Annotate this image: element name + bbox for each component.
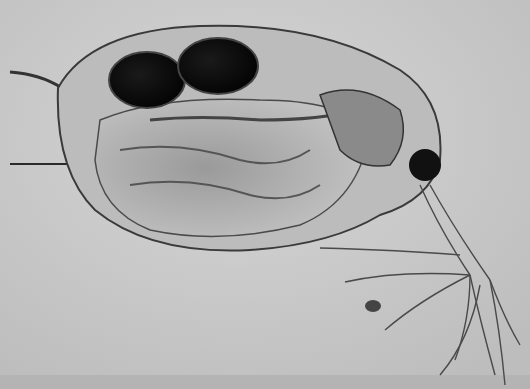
brood-egg-2	[178, 38, 258, 94]
compound-eye	[409, 149, 441, 181]
debris-speck	[365, 300, 381, 312]
micrograph-drawing	[0, 0, 530, 389]
daphnia-micrograph	[0, 0, 530, 389]
brood-egg-1	[109, 52, 185, 108]
